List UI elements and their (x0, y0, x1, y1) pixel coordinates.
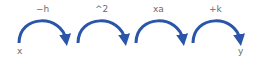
step-2-label: ^2 (95, 4, 108, 14)
arrow-step-4 (193, 21, 240, 43)
output-label: y (238, 46, 243, 56)
arrow-step-1 (19, 21, 66, 43)
input-label: x (17, 46, 22, 56)
step-3-label: xa (153, 4, 164, 14)
arrow-step-3 (136, 21, 183, 43)
step-4-label: +k (209, 4, 222, 14)
arrow-step-2 (78, 21, 125, 43)
step-1-label: −h (36, 4, 49, 14)
